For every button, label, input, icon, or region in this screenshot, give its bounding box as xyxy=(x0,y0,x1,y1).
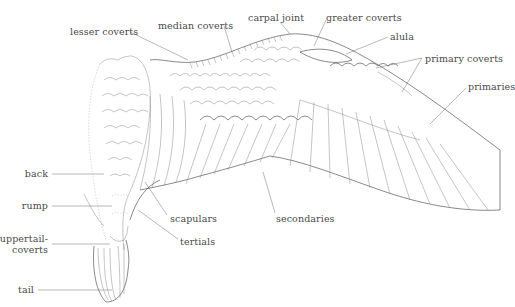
label-tertials: tertials xyxy=(180,236,215,247)
label-lesser-coverts: lesser coverts xyxy=(70,26,138,37)
body-outline xyxy=(84,56,150,250)
label-alula: alula xyxy=(390,31,414,42)
tail-feathers xyxy=(94,240,129,302)
label-scapulars: scapulars xyxy=(170,213,217,224)
label-tail: tail xyxy=(18,284,34,295)
label-carpal-joint: carpal joint xyxy=(248,12,304,23)
label-primary-coverts: primary coverts xyxy=(425,53,503,64)
label-rump: rump xyxy=(22,200,48,211)
label-median-coverts: median coverts xyxy=(158,20,233,31)
leader-lines xyxy=(38,20,466,290)
label-uppertail-coverts-line1: uppertail- xyxy=(0,233,48,244)
label-uppertail-coverts-line2: coverts xyxy=(0,244,48,255)
label-back: back xyxy=(25,168,48,179)
label-greater-coverts: greater coverts xyxy=(326,12,402,23)
label-uppertail-coverts: uppertail- coverts xyxy=(0,233,48,255)
label-primaries: primaries xyxy=(468,81,515,92)
label-secondaries: secondaries xyxy=(276,213,335,224)
